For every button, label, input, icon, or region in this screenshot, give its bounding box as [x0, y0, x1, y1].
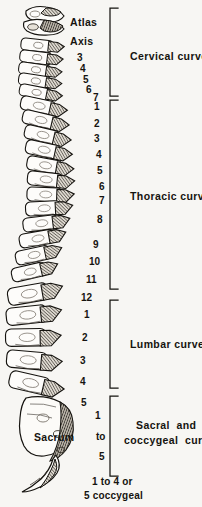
label-sacrum: Sacrum: [34, 432, 74, 443]
curve-label-sacral-coccygeal-line1: Sacral and: [136, 420, 196, 431]
lumbar-number-4: 4: [80, 377, 86, 388]
curve-label-sacral-coccygeal-line2: coccygeal curve: [124, 435, 202, 446]
label-axis: Axis: [70, 36, 93, 47]
curve-label-cervical: Cervical curve: [130, 51, 202, 62]
thoracic-number-8: 8: [97, 215, 103, 226]
lumbar-number-2: 2: [82, 333, 88, 344]
thoracic-number-7: 7: [99, 196, 105, 207]
cervical-number-4: 4: [80, 64, 86, 75]
thoracic-number-5: 5: [97, 166, 103, 177]
curve-label-thoracic: Thoracic curve: [130, 191, 202, 202]
thoracic-number-11: 11: [86, 275, 97, 286]
sacral-number-1: 1: [95, 411, 101, 422]
thoracic-number-4: 4: [96, 150, 102, 161]
label-atlas: Atlas: [70, 17, 97, 28]
coccygeal-caption-line1: 1 to 4 or: [92, 477, 133, 488]
lumbar-number-3: 3: [80, 356, 86, 367]
sacral-range-to: to: [96, 432, 105, 443]
lumbar-number-5: 5: [81, 398, 87, 409]
cervical-number-6: 6: [86, 85, 92, 96]
thoracic-number-9: 9: [93, 240, 99, 251]
coccygeal-caption-line2: 5 coccygeal: [84, 491, 143, 502]
thoracic-number-10: 10: [89, 257, 100, 268]
thoracic-number-3: 3: [94, 134, 100, 145]
lumbar-number-1: 1: [84, 310, 90, 321]
curve-label-lumbar: Lumbar curve: [130, 339, 202, 350]
thoracic-number-2: 2: [94, 119, 100, 130]
thoracic-number-1: 1: [94, 102, 100, 113]
thoracic-number-6: 6: [99, 182, 105, 193]
thoracic-number-12: 12: [81, 293, 92, 304]
sacral-number-5: 5: [99, 452, 105, 463]
cervical-number-3: 3: [77, 53, 83, 64]
